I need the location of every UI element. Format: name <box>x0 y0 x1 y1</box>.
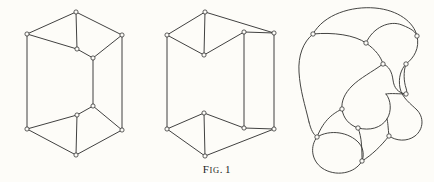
panel-left-prism <box>25 10 124 157</box>
caption-prefix-letter: F <box>203 163 210 175</box>
figure-caption: FIG.1 <box>0 159 434 177</box>
panel-right-curvilinear-graph <box>299 8 422 173</box>
caption-text: FIG.1 <box>203 163 231 175</box>
panel-middle-prism <box>165 10 276 158</box>
figure-illustration <box>0 0 434 182</box>
panel-right-vertices <box>311 32 419 163</box>
caption-smallcaps: IG <box>210 165 220 175</box>
caption-number: 1 <box>225 163 231 175</box>
caption-period: . <box>220 163 223 175</box>
panel-left-vertices <box>25 10 124 157</box>
figure-page: FIG.1 <box>0 0 434 182</box>
